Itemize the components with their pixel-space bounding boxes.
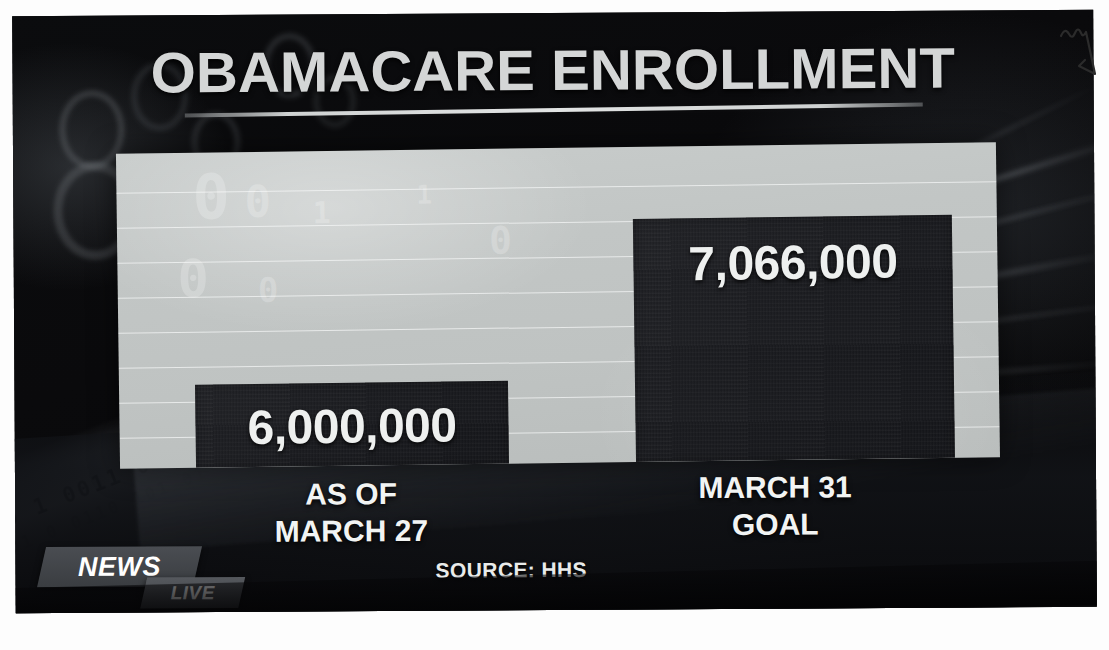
- page-title: OBAMACARE ENROLLMENT: [151, 39, 956, 102]
- headline-block: OBAMACARE ENROLLMENT: [12, 38, 1093, 116]
- ghost-digit: 0: [177, 249, 209, 309]
- broadcast-graphic: 1001 0110 1 0011 0 1101 001 10 1 0011 01…: [12, 10, 1097, 614]
- ghost-digit: 1: [416, 180, 432, 210]
- bar-march-31-goal: 7,066,000: [633, 215, 955, 462]
- ghost-digit: 0: [257, 270, 278, 310]
- ghost-digit: 0: [489, 219, 512, 263]
- category-label-as-of-march-27: AS OF MARCH 27: [201, 475, 501, 550]
- gridline: [116, 181, 996, 194]
- handwritten-mark-icon: [1055, 22, 1101, 82]
- category-label-line1: MARCH 31: [698, 470, 852, 504]
- ghost-digit: 0: [192, 160, 230, 233]
- category-label-line1: AS OF: [305, 477, 397, 511]
- category-label-line2: GOAL: [625, 505, 925, 543]
- chart-plot-area: 0 0 1 0 0 1 0 6,000,000 7,066,000: [116, 142, 1000, 468]
- category-label-line2: MARCH 27: [201, 512, 501, 550]
- ghost-digit: 0: [244, 176, 271, 227]
- bar-value-label: 7,066,000: [633, 233, 953, 292]
- scanned-page: 1001 0110 1 0011 0 1101 001 10 1 0011 01…: [0, 0, 1109, 650]
- category-label-march-31-goal: MARCH 31 GOAL: [625, 469, 925, 544]
- bar-as-of-march-27: 6,000,000: [195, 381, 509, 468]
- bar-value-label: 6,000,000: [195, 397, 509, 456]
